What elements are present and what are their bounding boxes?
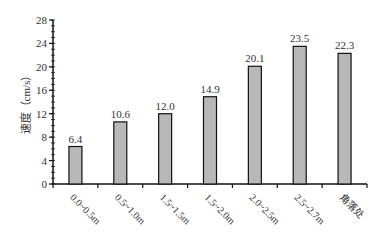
bar [159, 114, 172, 184]
bar [69, 147, 82, 184]
y-tick-label: 8 [42, 131, 48, 143]
bar-value-label: 20.1 [245, 52, 264, 64]
y-axis-label: 速度（cm/s） [19, 70, 32, 135]
y-axis: 0481216202428 [36, 14, 55, 190]
y-tick-label: 28 [36, 14, 48, 26]
bar-value-label: 14.9 [200, 83, 220, 95]
bar-value-label: 6.4 [69, 133, 83, 145]
bar-chart: 0481216202428 0.0~0.5m0.5~1.0m1.5~1.5m1.… [0, 0, 387, 247]
bar [293, 46, 306, 184]
x-tick-label: 0.5~1.0m [113, 192, 148, 227]
x-axis: 0.0~0.5m0.5~1.0m1.5~1.5m1.5~2.0m2.0~2.5m… [53, 184, 367, 227]
bar-value-label: 10.6 [111, 108, 131, 120]
y-tick-label: 24 [36, 37, 48, 49]
bar [114, 122, 127, 184]
y-tick-label: 0 [42, 178, 48, 190]
bar-value-label: 12.0 [156, 100, 176, 112]
x-tick-label: 2.0~2.5m [247, 192, 282, 227]
x-tick-label: 角落处 [337, 192, 366, 221]
x-tick-label: 1.5~2.0m [203, 192, 238, 227]
bar [338, 53, 351, 184]
x-tick-label: 2.5~2.7m [292, 192, 327, 227]
x-tick-label: 1.5~1.5m [158, 192, 193, 227]
bar-value-label: 23.5 [290, 32, 310, 44]
y-tick-label: 20 [36, 61, 48, 73]
y-tick-label: 12 [36, 108, 47, 120]
y-tick-label: 16 [36, 84, 48, 96]
bar-value-label: 22.3 [335, 39, 355, 51]
bars: 6.410.612.014.920.123.522.3 [69, 32, 355, 184]
y-tick-label: 4 [42, 155, 48, 167]
bar [204, 97, 217, 184]
bar [248, 66, 261, 184]
x-tick-label: 0.0~0.5m [68, 192, 103, 227]
